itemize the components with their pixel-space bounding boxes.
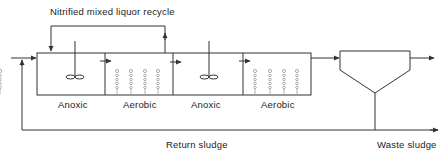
mixer-icon (200, 41, 218, 79)
zone-label-anoxic-1: Anoxic (58, 99, 88, 110)
mixer-icon (66, 41, 84, 79)
zone-label-aerobic-2: Aerobic (261, 99, 295, 110)
flow-arrows (100, 61, 250, 62)
clarifier (340, 51, 410, 130)
zone-label-aerobic-1: Aerobic (123, 99, 157, 110)
process-flow-diagram (0, 0, 441, 154)
return-sludge-label: Return sludge (166, 139, 228, 150)
zone-label-anoxic-2: Anoxic (191, 99, 221, 110)
recycle-line (51, 26, 165, 53)
recycle-label: Nitrified mixed liquor recycle (50, 6, 175, 17)
waste-sludge-label: Waste sludge (377, 139, 437, 150)
diffuser-bubbles-icon (0, 69, 299, 94)
